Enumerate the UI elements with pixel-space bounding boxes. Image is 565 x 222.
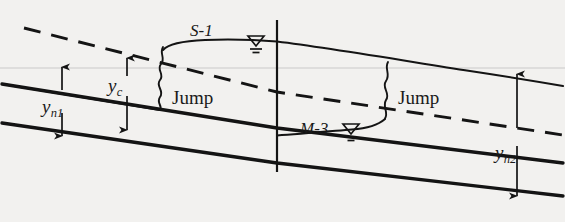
depth-label-yc: yc (108, 76, 122, 95)
depth-label-yn1-subscript: n1 (51, 106, 64, 120)
depth-label-yn2: yn2 (495, 143, 516, 162)
upstream-water-surface-line (2, 84, 160, 110)
jump-label-left: Jump (172, 88, 213, 107)
hydraulic-jump-left-wavy-line (159, 47, 163, 110)
profile-label-m3: M-3 (300, 120, 328, 137)
channel-bed-upper-line (2, 84, 563, 163)
water-surface-profile-figure: S-1 M-3 Jump Jump yc yn1 yn2 (0, 0, 565, 222)
depth-label-yn1-symbol: y (42, 96, 50, 117)
figure-canvas (0, 0, 565, 222)
depth-label-yn2-symbol: y (495, 142, 503, 163)
depth-label-yn1: yn1 (42, 97, 63, 116)
depth-label-yc-subscript: c (117, 85, 123, 99)
depth-label-yn2-subscript: n2 (504, 152, 517, 166)
jump-label-right: Jump (398, 88, 439, 107)
channel-bed-lower-line (2, 123, 563, 196)
profile-label-s1: S-1 (190, 22, 213, 39)
depth-label-yc-symbol: y (108, 75, 116, 96)
water-surface-level-icon-s1 (248, 36, 264, 53)
